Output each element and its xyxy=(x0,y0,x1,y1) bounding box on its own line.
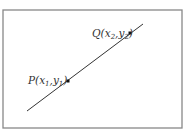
diagram: P(x1,y1) Q(x2,y2) xyxy=(0,0,185,132)
